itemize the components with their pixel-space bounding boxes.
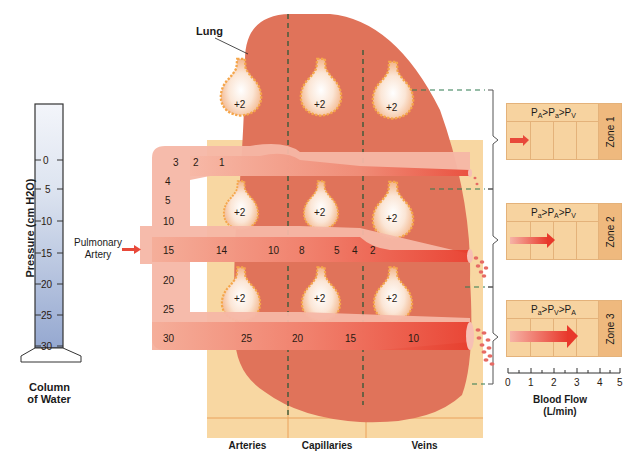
pressure-stem-10: 10	[163, 216, 174, 227]
column-tick-20: 20	[41, 279, 52, 290]
pulmonary-artery-line2: Artery	[72, 249, 124, 261]
alveolus-pressure: +2	[386, 213, 397, 224]
alveolus-pressure: +2	[314, 207, 325, 218]
zone-2-condition: Pa>PA>PV	[507, 204, 600, 222]
flow-tick-5: 5	[617, 377, 623, 388]
alveolus-pressure: +2	[234, 99, 245, 110]
pressure-mid-10: 10	[268, 245, 279, 256]
pressure-stem-30: 30	[163, 333, 174, 344]
pressure-mid-8: 8	[299, 245, 305, 256]
alveolus-pressure: +2	[234, 207, 245, 218]
pressure-top-1: 1	[219, 157, 225, 168]
pressure-axis-label: Pressure (cm H2O)	[24, 168, 36, 288]
column-tick-25: 25	[41, 310, 52, 321]
flow-tick-4: 4	[597, 377, 603, 388]
zone-1-flow-arrow	[510, 138, 524, 143]
pressure-bot-10: 10	[408, 333, 419, 344]
column-tick-15: 15	[41, 248, 52, 259]
zone-2-flow-arrow	[510, 237, 548, 244]
zone-3-label: Zone 3	[598, 301, 621, 356]
flow-axis-label-2: (L/min)	[520, 406, 600, 418]
pressure-stem-15: 15	[163, 245, 174, 256]
zone-3-flow-arrow	[510, 331, 568, 342]
pressure-mid-4: 4	[352, 245, 358, 256]
flow-tick-0: 0	[505, 377, 511, 388]
region-arteries: Arteries	[207, 440, 288, 452]
pressure-stem-4: 4	[165, 176, 171, 187]
flow-axis-label-1: Blood Flow	[520, 394, 600, 406]
pressure-stem-20: 20	[163, 275, 174, 286]
pressure-mid-5: 5	[334, 245, 340, 256]
column-caption-2: of Water	[22, 393, 76, 405]
pressure-top-3: 3	[173, 157, 179, 168]
zone-2-label: Zone 2	[598, 204, 621, 259]
column-caption-1: Column	[29, 381, 69, 393]
pulmonary-artery-line1: Pulmonary	[72, 237, 124, 249]
alveolus-pressure: +2	[314, 293, 325, 304]
pressure-stem-25: 25	[163, 304, 174, 315]
pressure-bot-20: 20	[292, 333, 303, 344]
zone-1-condition: PA>Pa>PV	[507, 104, 600, 122]
alveolus-pressure: +2	[386, 102, 397, 113]
pressure-mid-2: 2	[370, 245, 376, 256]
flow-tick-2: 2	[551, 377, 557, 388]
column-tick-30: 30	[41, 341, 52, 352]
alveolus-pressure: +2	[386, 293, 397, 304]
zone-3-box: Pa>PV>PA Zone 3	[506, 300, 622, 357]
alveolus-pressure: +2	[314, 99, 325, 110]
lung-shape	[234, 14, 471, 422]
zone-2-box: Pa>PA>PV Zone 2	[506, 203, 622, 260]
flow-tick-1: 1	[528, 377, 534, 388]
column-tick-5: 5	[45, 184, 51, 195]
pressure-bot-15: 15	[345, 333, 356, 344]
pressure-bot-25: 25	[241, 333, 252, 344]
lung-label: Lung	[196, 25, 223, 37]
zone-3-condition: Pa>PV>PA	[507, 301, 600, 319]
pressure-mid-14: 14	[216, 245, 227, 256]
zone-1-box: PA>Pa>PV Zone 1	[506, 103, 622, 160]
alveolus-pressure: +2	[234, 293, 245, 304]
column-tick-10: 10	[41, 216, 52, 227]
region-veins: Veins	[366, 440, 483, 452]
pulmonary-artery-label: Pulmonary Artery	[72, 237, 124, 261]
column-tick-0: 0	[43, 155, 49, 166]
zone-1-label: Zone 1	[598, 104, 621, 159]
pressure-stem-5: 5	[165, 195, 171, 206]
flow-tick-3: 3	[574, 377, 580, 388]
pressure-axis-text: Pressure (cm H2O)	[24, 178, 36, 277]
region-capillaries: Capillaries	[288, 440, 366, 452]
pressure-top-2: 2	[193, 157, 199, 168]
